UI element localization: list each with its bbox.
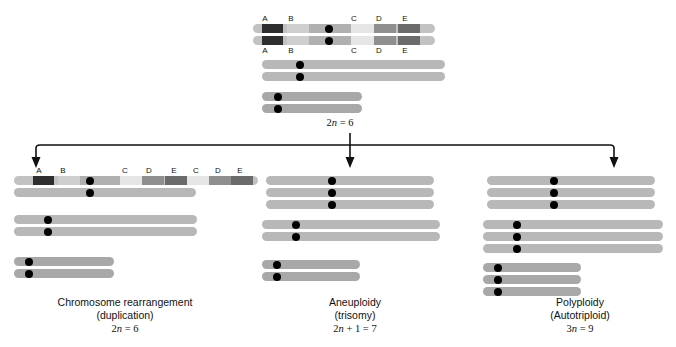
- aneu-centromere-1b: [328, 189, 336, 197]
- caption-line2: (trisomy): [275, 309, 435, 322]
- parent-band-label-B-top: B: [285, 14, 297, 23]
- parent-band-label-A-top: A: [259, 14, 271, 23]
- poly-centromere-2a: [513, 221, 521, 229]
- poly-centromere-3a: [494, 264, 502, 272]
- dup-centromere-3b: [25, 270, 33, 278]
- dup-centromere-1b: [86, 189, 94, 197]
- arrowhead-right: [610, 157, 619, 168]
- poly-centromere-1b: [550, 189, 558, 197]
- caption-polyploidy: Polyploidy (Autotriploid) 3n = 9: [500, 296, 660, 335]
- dup-chromosome-1a: [14, 176, 258, 185]
- band-B: [287, 36, 309, 45]
- arrowhead-center: [346, 157, 355, 168]
- poly-chromosome-1a: [487, 176, 655, 185]
- aneu-chromosome-1b: [266, 188, 434, 197]
- aneu-centromere-2a: [292, 221, 300, 229]
- band-E-duplicate: [231, 176, 253, 185]
- centromere-3a: [274, 93, 282, 101]
- caption-aneuploidy: Aneuploidy (trisomy) 2n + 1 = 7: [275, 296, 435, 335]
- dup-band-label-A: A: [33, 166, 45, 175]
- parent-band-label-E-bottom: E: [399, 46, 411, 55]
- poly-centromere-1a: [550, 177, 558, 185]
- band-C: [351, 36, 374, 45]
- band-D: [374, 24, 396, 33]
- band-B: [287, 24, 309, 33]
- dup-chromosome-1b: [14, 188, 196, 197]
- aneu-centromere-3a: [273, 261, 281, 269]
- centromere-2a: [296, 61, 304, 69]
- dup-band-label-E: E: [168, 166, 180, 175]
- caption-ploidy: 3n = 9: [500, 322, 660, 335]
- band-D-duplicate: [209, 176, 231, 185]
- poly-chromosome-2a: [483, 220, 663, 229]
- dup-centromere-2b: [44, 228, 52, 236]
- band-E: [165, 176, 187, 185]
- ploidy-suffix: = 6: [337, 117, 353, 128]
- poly-chromosome-1c: [487, 200, 655, 209]
- aneu-chromosome-1c-extra: [266, 200, 434, 209]
- poly-chromosome-2b: [483, 232, 663, 241]
- band-A: [262, 36, 283, 45]
- ploidy-suffix: + 1 = 7: [344, 323, 377, 334]
- poly-chromosome-2c: [483, 244, 663, 253]
- poly-chromosome-1b: [487, 188, 655, 197]
- parent-ploidy-label: 2n = 6: [290, 117, 390, 128]
- aneu-centromere-1a: [328, 177, 336, 185]
- aneu-centromere-1c: [328, 201, 336, 209]
- dup-chromosome-2a: [14, 215, 197, 224]
- caption-chromosome-rearrangement: Chromosome rearrangement (duplication) 2…: [0, 296, 250, 335]
- parent-chromosome-2a: [262, 60, 445, 69]
- aneu-centromere-2b: [292, 233, 300, 241]
- poly-centromere-2b: [513, 233, 521, 241]
- band-C: [351, 24, 374, 33]
- parent-chromosome-2b: [262, 72, 445, 81]
- band-E: [398, 36, 420, 45]
- band-D: [374, 36, 396, 45]
- dup-band-label-E2: E: [234, 166, 246, 175]
- caption-line2: (Autotriploid): [500, 309, 660, 322]
- caption-line1: Polyploidy: [500, 296, 660, 309]
- parent-band-label-A-bottom: A: [259, 46, 271, 55]
- dup-centromere-1a: [86, 177, 94, 185]
- dup-band-label-C2: C: [190, 166, 202, 175]
- band-C: [120, 176, 142, 185]
- centromere-3b: [274, 105, 282, 113]
- band-A: [262, 24, 283, 33]
- aneu-chromosome-2b: [262, 232, 440, 241]
- dup-chromosome-2b: [14, 227, 197, 236]
- parent-band-label-C-bottom: C: [348, 46, 360, 55]
- parent-chromosome-1b: [253, 36, 435, 45]
- poly-centromere-3b: [494, 276, 502, 284]
- caption-line2: (duplication): [0, 309, 250, 322]
- parent-band-label-D-bottom: D: [373, 46, 385, 55]
- poly-centromere-1c: [550, 201, 558, 209]
- dup-centromere-3a: [25, 258, 33, 266]
- poly-centromere-2c: [513, 245, 521, 253]
- parent-band-label-C-top: C: [348, 14, 360, 23]
- centromere-2b: [296, 73, 304, 81]
- parent-chromosome-1a: [253, 24, 435, 33]
- caption-ploidy: 2n + 1 = 7: [275, 322, 435, 335]
- parent-band-label-E-top: E: [399, 14, 411, 23]
- band-E: [398, 24, 420, 33]
- aneu-chromosome-1a: [266, 176, 434, 185]
- centromere-1b: [325, 37, 333, 45]
- ploidy-suffix: = 6: [122, 323, 138, 334]
- dup-band-label-B: B: [57, 166, 69, 175]
- dup-centromere-2a: [44, 216, 52, 224]
- band-D: [142, 176, 164, 185]
- dup-band-label-D2: D: [212, 166, 224, 175]
- parent-band-label-B-bottom: B: [285, 46, 297, 55]
- band-B: [58, 176, 80, 185]
- dup-band-label-D: D: [143, 166, 155, 175]
- aneu-centromere-3b: [273, 273, 281, 281]
- ploidy-suffix: = 9: [577, 323, 593, 334]
- parent-band-label-D-top: D: [373, 14, 385, 23]
- centromere-1a: [325, 25, 333, 33]
- dup-band-label-C: C: [119, 166, 131, 175]
- poly-centromere-3c: [494, 288, 502, 296]
- caption-line1: Chromosome rearrangement: [0, 296, 250, 309]
- caption-line1: Aneuploidy: [275, 296, 435, 309]
- band-C-duplicate: [187, 176, 209, 185]
- caption-ploidy: 2n = 6: [0, 322, 250, 335]
